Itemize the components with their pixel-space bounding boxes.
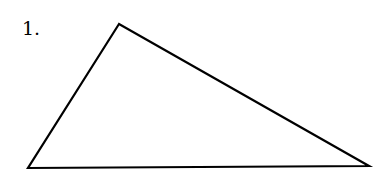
problem-canvas: 1.	[0, 0, 383, 179]
triangle-shape	[28, 24, 369, 168]
triangle-figure	[0, 0, 383, 179]
